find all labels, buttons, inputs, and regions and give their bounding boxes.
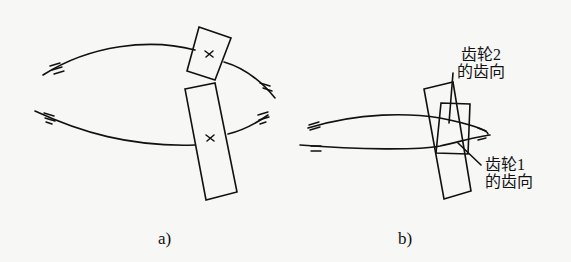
- upper-shaft-curve-right: [224, 62, 275, 98]
- lower-shaft-curve-right: [228, 115, 268, 134]
- panel-a-drawing: [35, 27, 275, 200]
- upper-shaft-curve: [43, 44, 195, 75]
- gear2-label-line2: 的齿向: [457, 63, 505, 80]
- gear1-label: 齿轮1 的齿向: [485, 156, 533, 190]
- caption-a: a): [158, 229, 171, 249]
- panel-b-drawing: [300, 73, 490, 199]
- large-gear-rect: [185, 83, 237, 200]
- gear2-label: 齿轮2 的齿向: [461, 46, 505, 80]
- gear1-label-line2: 的齿向: [485, 173, 533, 190]
- gear-diagram: [0, 0, 571, 262]
- caption-b: b): [398, 229, 412, 249]
- gear1-label-line1: 齿轮1: [485, 156, 533, 173]
- lower-shaft-curve: [35, 111, 195, 145]
- gear2-leader: [449, 73, 453, 123]
- gear2-label-line1: 齿轮2: [461, 46, 505, 63]
